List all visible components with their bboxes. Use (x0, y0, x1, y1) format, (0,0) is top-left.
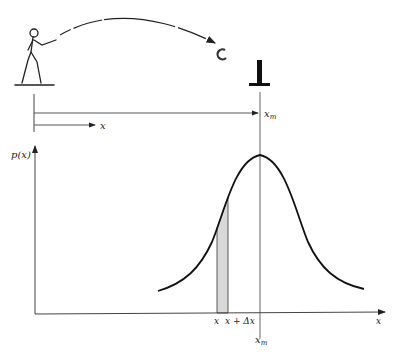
distance-label: x (100, 120, 106, 131)
mean-label: xm (255, 334, 268, 347)
strip-right-label: x + Δx (225, 316, 255, 326)
x-axis-label: x (376, 316, 381, 326)
trajectory-arc (60, 18, 215, 43)
x-axis (35, 312, 385, 314)
strip-left-label: x (214, 316, 219, 326)
target-label: xm (264, 108, 277, 121)
horseshoe-icon (218, 49, 226, 59)
density-curve (158, 155, 364, 291)
horseshoe-probability-diagram: xm x p(x) x x x + Δx xm (0, 0, 400, 359)
person-throwing-icon (15, 29, 56, 85)
stake-icon (249, 60, 270, 86)
y-axis-label: p(x) (11, 149, 31, 160)
